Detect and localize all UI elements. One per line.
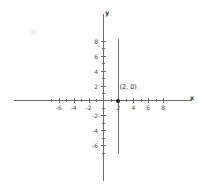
x-axis-tick [74, 98, 75, 103]
data-point-label: (2, 0) [119, 83, 136, 91]
y-axis-tick [102, 93, 105, 94]
x-axis-tick [133, 98, 134, 103]
y-tick-label: 2 [94, 82, 98, 89]
y-axis-tick [101, 86, 106, 87]
data-point-marker [116, 99, 120, 103]
y-axis-tick [102, 63, 105, 64]
y-axis-tick [102, 78, 105, 79]
x-axis-tick [111, 99, 112, 102]
y-axis-tick [102, 48, 105, 49]
x-axis-tick [96, 99, 97, 102]
y-tick-label: 6 [94, 52, 98, 59]
x-axis-tick [59, 98, 60, 103]
y-axis-tick [102, 123, 105, 124]
y-axis-tick [101, 145, 106, 146]
y-axis-tick [102, 153, 105, 154]
x-tick-label: -6 [56, 104, 62, 111]
y-axis [103, 14, 104, 181]
x-axis-tick [81, 99, 82, 102]
x-tick-label: -2 [86, 104, 92, 111]
x-axis-tick [51, 99, 52, 102]
x-axis-tick [66, 99, 67, 102]
y-tick-label: -4 [92, 127, 98, 134]
x-axis-label: x [190, 94, 194, 102]
x-tick-label: -4 [71, 104, 77, 111]
x-axis-tick [148, 98, 149, 103]
y-tick-label: 4 [94, 67, 98, 74]
y-axis-tick [102, 138, 105, 139]
y-axis-tick [101, 41, 106, 42]
image-artifact [31, 30, 36, 35]
y-axis-tick [101, 56, 106, 57]
y-tick-label: -2 [92, 112, 98, 119]
x-axis-tick [141, 99, 142, 102]
x-tick-label: 6 [146, 104, 150, 111]
y-axis-label: y [105, 9, 109, 17]
function-line [118, 39, 119, 154]
x-tick-label: 4 [131, 104, 135, 111]
x-axis-tick [126, 99, 127, 102]
x-axis-tick [89, 98, 90, 103]
y-axis-tick [101, 71, 106, 72]
x-axis-tick [163, 98, 164, 103]
y-axis-tick [102, 108, 105, 109]
y-tick-label: -6 [92, 142, 98, 149]
y-axis-tick [101, 115, 106, 116]
x-tick-label: 8 [161, 104, 165, 111]
coordinate-plane-chart: x y -6-4-224688642-2-4-6 (2, 0) [0, 0, 198, 190]
x-axis-tick [156, 99, 157, 102]
y-axis-tick [101, 130, 106, 131]
y-tick-label: 8 [94, 37, 98, 44]
